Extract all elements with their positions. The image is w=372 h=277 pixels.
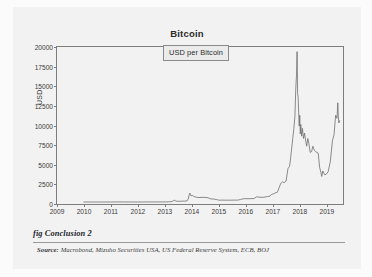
- x-axis-tick-label: 2018: [292, 208, 307, 215]
- legend-usd-per-bitcoin: USD per Bitcoin: [163, 45, 229, 61]
- x-axis-tick-label: 2010: [77, 208, 92, 215]
- x-axis-tick-label: 2019: [319, 208, 334, 215]
- y-axis-tick-label: 0: [49, 201, 53, 208]
- y-axis-tick-label: 12500: [35, 102, 53, 109]
- x-axis-tick-mark: [165, 204, 166, 207]
- y-axis-tick-mark: [54, 47, 57, 48]
- y-axis-tick-label: 20000: [35, 44, 53, 51]
- y-axis-tick-mark: [54, 126, 57, 127]
- x-axis-tick-mark: [84, 204, 85, 207]
- x-axis-tick-mark: [246, 204, 247, 207]
- y-axis-tick-mark: [54, 67, 57, 68]
- x-axis-tick-mark: [219, 204, 220, 207]
- y-axis-tick-label: 15000: [35, 83, 53, 90]
- x-axis-tick-label: 2016: [239, 208, 254, 215]
- y-axis-tick-mark: [54, 165, 57, 166]
- x-axis-tick-label: 2012: [131, 208, 146, 215]
- x-axis-tick-label: 2009: [50, 208, 65, 215]
- x-axis-tick-label: 2017: [266, 208, 281, 215]
- figure-caption: fig Conclusion 2: [33, 229, 92, 238]
- x-axis-tick-label: 2013: [158, 208, 173, 215]
- x-axis-tick-mark: [192, 204, 193, 207]
- y-axis-tick-label: 17500: [35, 63, 53, 70]
- x-axis-tick-mark: [327, 204, 328, 207]
- y-axis-tick-label: 2500: [38, 181, 53, 188]
- plot-area: USD 025005000750010000125001500017500200…: [56, 46, 344, 205]
- bitcoin-price-line: [84, 52, 340, 202]
- chart-title: Bitcoin: [13, 28, 361, 39]
- y-axis-tick-label: 10000: [35, 122, 53, 129]
- x-axis-tick-mark: [111, 204, 112, 207]
- x-axis-tick-label: 2011: [104, 208, 118, 215]
- source-text: Macrobond, Mizuho Securities USA, US Fed…: [61, 246, 269, 253]
- legend-label: USD per Bitcoin: [169, 48, 223, 57]
- y-axis-tick-mark: [54, 86, 57, 87]
- y-axis-tick-label: 5000: [38, 161, 53, 168]
- y-axis-tick-mark: [54, 106, 57, 107]
- y-axis-tick-label: 7500: [38, 142, 53, 149]
- x-axis-tick-mark: [300, 204, 301, 207]
- caption-divider: [33, 242, 345, 243]
- source-line: Source: Macrobond, Mizuho Securities USA…: [37, 246, 269, 253]
- x-axis-tick-label: 2014: [185, 208, 200, 215]
- x-axis-tick-label: 2015: [212, 208, 227, 215]
- x-axis-tick-mark: [57, 204, 58, 207]
- y-axis-tick-mark: [54, 145, 57, 146]
- y-axis-tick-mark: [54, 184, 57, 185]
- figure-panel: Bitcoin USD 0250050007500100001250015000…: [13, 7, 361, 269]
- price-line-chart: [57, 47, 343, 204]
- x-axis-tick-mark: [138, 204, 139, 207]
- x-axis-tick-mark: [273, 204, 274, 207]
- source-label: Source:: [37, 246, 59, 253]
